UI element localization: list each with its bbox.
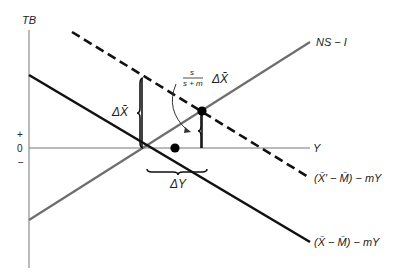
new-equilibrium-point — [197, 106, 206, 115]
plus-sign: + — [17, 129, 23, 140]
x-axis-label: Y — [313, 142, 321, 154]
tb-old-line — [29, 75, 310, 242]
tb-new-line — [72, 32, 310, 178]
fraction-numerator: s — [190, 68, 194, 77]
zero-label: 0 — [17, 143, 23, 154]
ns-i-line — [29, 42, 310, 220]
trade-balance-diagram: TB Y + 0 − NS − I (X̄′ − M̄) − mY (X̄ − … — [0, 0, 397, 276]
arrow-head-icon — [184, 127, 191, 133]
fraction-denominator: s + m — [183, 79, 203, 88]
tb-new-label: (X̄′ − M̄) − mY — [314, 172, 382, 184]
curved-arrow — [172, 84, 187, 130]
original-equilibrium-point — [170, 143, 179, 152]
tb-old-label: (X̄ − M̄) − mY — [314, 236, 380, 248]
y-axis-label: TB — [22, 14, 36, 26]
fraction-delta-x: ΔX̄ — [211, 72, 229, 86]
fraction-brace — [198, 112, 201, 148]
ns-i-label: NS − I — [316, 36, 347, 48]
minus-sign: − — [18, 157, 24, 168]
delta-x-label: ΔX̄ — [111, 105, 129, 119]
delta-y-label: ΔY — [169, 177, 187, 191]
